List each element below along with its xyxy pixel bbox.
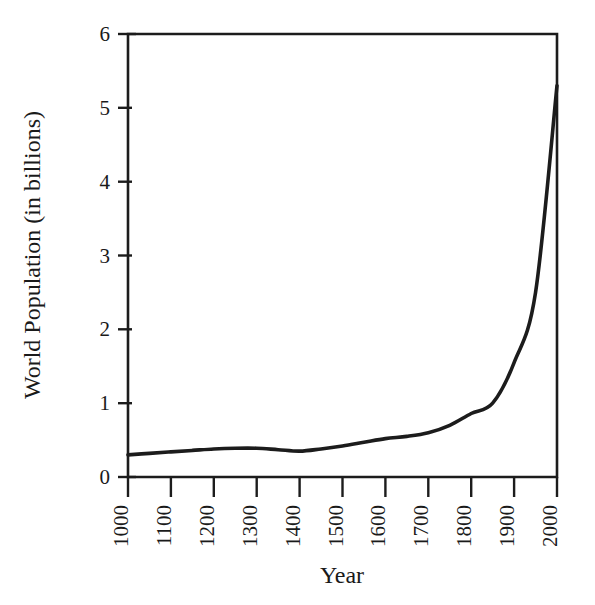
x-tick-label-2000: 2000	[538, 505, 562, 547]
y-tick-label-6: 6	[100, 22, 111, 46]
y-axis-title: World Population (in billions)	[19, 111, 45, 399]
y-tick-label-5: 5	[100, 96, 111, 120]
x-tick-label-1300: 1300	[238, 505, 262, 547]
x-tick-label-1500: 1500	[324, 505, 348, 547]
world-population-line-chart: 0 1 2 3 4 5 6 1000 1100 1200 13	[0, 0, 595, 605]
y-axis-tick-labels: 0 1 2 3 4 5 6	[100, 22, 111, 489]
x-tick-label-1100: 1100	[152, 505, 176, 546]
x-tick-label-1400: 1400	[281, 505, 305, 547]
x-tick-label-1000: 1000	[109, 505, 133, 547]
axis-frame-path	[128, 34, 557, 477]
y-tick-label-2: 2	[100, 317, 111, 341]
chart-figure: 0 1 2 3 4 5 6 1000 1100 1200 13	[0, 0, 595, 605]
x-axis-tick-labels: 1000 1100 1200 1300 1400 1500 1600 1700 …	[109, 505, 562, 547]
x-tick-label-1900: 1900	[495, 505, 519, 547]
x-axis-title: Year	[320, 562, 364, 588]
population-curve	[128, 86, 557, 455]
x-tick-label-1800: 1800	[452, 505, 476, 547]
plot-frame	[128, 34, 557, 477]
x-tick-label-1700: 1700	[409, 505, 433, 547]
y-tick-label-0: 0	[100, 465, 111, 489]
y-tick-label-1: 1	[100, 391, 111, 415]
x-axis-ticks	[128, 477, 557, 497]
y-tick-label-3: 3	[100, 244, 111, 268]
x-tick-label-1600: 1600	[366, 505, 390, 547]
y-tick-label-4: 4	[100, 170, 111, 194]
x-tick-label-1200: 1200	[195, 505, 219, 547]
